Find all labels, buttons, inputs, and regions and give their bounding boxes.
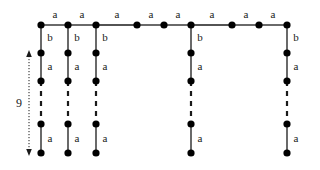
dimension-label: 9: [16, 96, 22, 110]
graph-node: [92, 77, 99, 84]
dimension-arrow-up-icon: [26, 50, 32, 57]
graph-node: [64, 120, 71, 127]
spine-edge-label: a: [176, 8, 181, 20]
spine-edge-label: a: [149, 8, 154, 20]
branch-label-b: b: [293, 31, 299, 43]
branch-label-a-upper: a: [198, 60, 203, 72]
branch-label-a-lower: a: [48, 132, 53, 144]
graph-node: [283, 49, 290, 56]
graph-node: [64, 77, 71, 84]
graph-diagram: 9: [0, 0, 320, 170]
graph-node: [187, 149, 194, 156]
figure-root: 9: [0, 0, 320, 170]
branch-label-b: b: [102, 31, 108, 43]
branch-label-b: b: [74, 31, 80, 43]
graph-node: [92, 21, 99, 28]
graph-node: [187, 21, 194, 28]
graph-node: [37, 77, 44, 84]
spine-edge-label: a: [115, 8, 120, 20]
branch-label-a-upper: a: [294, 60, 299, 72]
graph-node: [187, 49, 194, 56]
branch-label-a-lower: a: [294, 132, 299, 144]
graph-node: [283, 77, 290, 84]
branch-label-a-upper: a: [75, 60, 80, 72]
spine-edge-label: a: [80, 8, 85, 20]
graph-node: [64, 49, 71, 56]
spine-edge-label: a: [244, 8, 249, 20]
branch-label-a-upper: a: [103, 60, 108, 72]
branch-label-b: b: [197, 31, 203, 43]
graph-node: [187, 77, 194, 84]
graph-node: [255, 21, 262, 28]
branch-label-a-upper: a: [48, 60, 53, 72]
spine-edge-label: a: [53, 8, 58, 20]
branch-edge-labels: b a a b a a b a a b a a b a a: [47, 31, 299, 144]
graph-node: [283, 120, 290, 127]
spine-edge-label: a: [271, 8, 276, 20]
branch-label-a-lower: a: [198, 132, 203, 144]
graph-node: [283, 21, 290, 28]
graph-node: [92, 120, 99, 127]
graph-node: [37, 149, 44, 156]
graph-node: [37, 120, 44, 127]
graph-node: [37, 49, 44, 56]
graph-node: [160, 21, 167, 28]
graph-node: [92, 149, 99, 156]
graph-node: [228, 21, 235, 28]
graph-node: [133, 21, 140, 28]
spine-edge-label: a: [210, 8, 215, 20]
branch-label-a-lower: a: [75, 132, 80, 144]
graph-node: [187, 120, 194, 127]
graph-node: [92, 49, 99, 56]
graph-node: [64, 21, 71, 28]
graph-node: [37, 21, 44, 28]
dimension-arrow-down-icon: [26, 149, 32, 156]
branch-label-a-lower: a: [103, 132, 108, 144]
branch-label-b: b: [47, 31, 53, 43]
spine-edge-labels: a a a a a a a a: [53, 8, 276, 20]
graph-node: [64, 149, 71, 156]
dimension-indicator: 9: [16, 50, 32, 156]
graph-node: [283, 149, 290, 156]
